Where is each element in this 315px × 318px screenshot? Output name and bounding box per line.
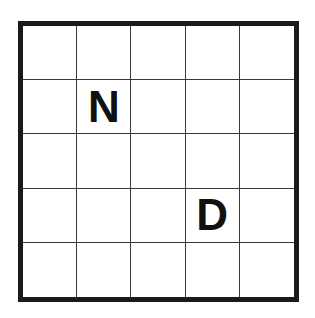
grid-cell-r2-c5[interactable] (240, 80, 294, 134)
grid-cell-r4-c1[interactable] (23, 189, 77, 243)
grid-cell-r5-c2[interactable] (77, 243, 131, 297)
grid-cell-r3-c2[interactable] (77, 134, 131, 188)
grid-cell-r2-c2[interactable]: N (77, 80, 131, 134)
grid-cell-r4-c2[interactable] (77, 189, 131, 243)
game-board: ND (18, 21, 299, 302)
grid-cell-r4-c4[interactable]: D (186, 189, 240, 243)
grid-cell-r5-c4[interactable] (186, 243, 240, 297)
grid-cell-r4-c3[interactable] (131, 189, 185, 243)
grid-cell-r3-c1[interactable] (23, 134, 77, 188)
grid-cell-r5-c5[interactable] (240, 243, 294, 297)
grid-cell-r3-c4[interactable] (186, 134, 240, 188)
grid-cell-r3-c3[interactable] (131, 134, 185, 188)
grid-cell-r1-c1[interactable] (23, 26, 77, 80)
grid-cell-r1-c2[interactable] (77, 26, 131, 80)
grid-cell-r2-c1[interactable] (23, 80, 77, 134)
grid-cell-r1-c4[interactable] (186, 26, 240, 80)
grid-cell-r1-c3[interactable] (131, 26, 185, 80)
grid-cell-r2-c4[interactable] (186, 80, 240, 134)
grid-cell-r1-c5[interactable] (240, 26, 294, 80)
grid-cell-r4-c5[interactable] (240, 189, 294, 243)
grid-cell-r5-c3[interactable] (131, 243, 185, 297)
grid-cell-r3-c5[interactable] (240, 134, 294, 188)
grid-cell-r5-c1[interactable] (23, 243, 77, 297)
grid-cell-r2-c3[interactable] (131, 80, 185, 134)
